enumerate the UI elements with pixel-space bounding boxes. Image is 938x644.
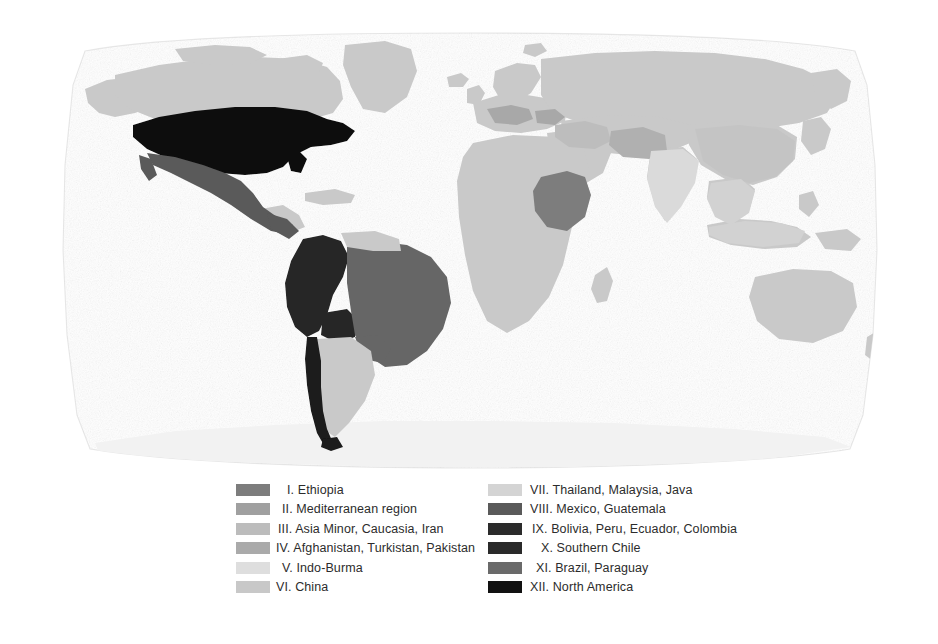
legend-label-ix: IX. Bolivia, Peru, Ecuador, Colombia bbox=[530, 522, 737, 536]
legend-label-ii: II. Mediterranean region bbox=[276, 502, 417, 516]
legend-item: X. Southern Chile bbox=[488, 539, 788, 559]
legend-swatch-ix bbox=[488, 523, 522, 535]
legend-item: VII. Thailand, Malaysia, Java bbox=[488, 480, 788, 500]
legend-swatch-xii bbox=[488, 581, 522, 593]
legend-label-xi: XI. Brazil, Paraguay bbox=[530, 561, 648, 575]
legend-item: IX. Bolivia, Peru, Ecuador, Colombia bbox=[488, 519, 788, 539]
legend-swatch-v bbox=[236, 562, 270, 574]
legend-item: XII. North America bbox=[488, 578, 788, 598]
legend-swatch-vi bbox=[236, 581, 270, 593]
legend-swatch-ii bbox=[236, 503, 270, 515]
legend-item: VI. China bbox=[236, 578, 488, 598]
legend-column-left: I. Ethiopia II. Mediterranean region III… bbox=[236, 480, 488, 597]
legend-label-xii: XII. North America bbox=[530, 580, 633, 594]
legend-label-iv: IV. Afghanistan, Turkistan, Pakistan bbox=[276, 541, 475, 555]
legend-item: I. Ethiopia bbox=[236, 480, 488, 500]
legend-item: IV. Afghanistan, Turkistan, Pakistan bbox=[236, 539, 488, 559]
legend-swatch-iv bbox=[236, 542, 270, 554]
legend-column-right: VII. Thailand, Malaysia, Java VIII. Mexi… bbox=[488, 480, 788, 597]
world-map bbox=[55, 25, 885, 475]
figure-root: I. Ethiopia II. Mediterranean region III… bbox=[0, 0, 938, 644]
legend-swatch-xi bbox=[488, 562, 522, 574]
legend-swatch-iii bbox=[236, 523, 270, 535]
legend-item: II. Mediterranean region bbox=[236, 500, 488, 520]
legend-swatch-x bbox=[488, 542, 522, 554]
legend-swatch-vii bbox=[488, 484, 522, 496]
legend-label-vii: VII. Thailand, Malaysia, Java bbox=[530, 483, 692, 497]
legend-label-viii: VIII. Mexico, Guatemala bbox=[530, 502, 666, 516]
legend-item: VIII. Mexico, Guatemala bbox=[488, 500, 788, 520]
legend: I. Ethiopia II. Mediterranean region III… bbox=[236, 480, 796, 620]
legend-label-vi: VI. China bbox=[276, 580, 328, 594]
legend-swatch-viii bbox=[488, 503, 522, 515]
legend-item: XI. Brazil, Paraguay bbox=[488, 558, 788, 578]
legend-label-i: I. Ethiopia bbox=[276, 483, 344, 497]
legend-swatch-i bbox=[236, 484, 270, 496]
legend-label-x: X. Southern Chile bbox=[530, 541, 641, 555]
world-map-svg bbox=[55, 25, 885, 475]
legend-label-v: V. Indo-Burma bbox=[276, 561, 363, 575]
legend-item: III. Asia Minor, Caucasia, Iran bbox=[236, 519, 488, 539]
legend-item: V. Indo-Burma bbox=[236, 558, 488, 578]
legend-label-iii: III. Asia Minor, Caucasia, Iran bbox=[276, 522, 444, 536]
